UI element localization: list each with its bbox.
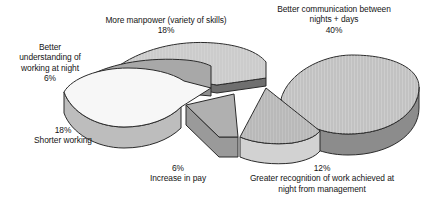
slice-label-communication: Better communication between nights + da… [243, 4, 425, 35]
slice-label-recognition: 12% Greater recognition of work achieved… [222, 163, 422, 194]
slice-label-manpower-line1: More manpower (variety of skills) [78, 15, 254, 25]
slice-percent-understanding: 6% [0, 73, 102, 83]
slice-label-shorter-line1: Shorter working [4, 135, 122, 145]
slice-label-understanding-line1: Better [0, 42, 102, 52]
slice-label-communication-line2: nights + days [243, 14, 425, 24]
slice-label-recognition-line2: night from management [222, 184, 422, 194]
slice-label-understanding-line3: working at night [0, 63, 102, 73]
slice-percent-shorter: 18% [4, 125, 122, 135]
slice-label-understanding: Better understanding of working at night… [0, 42, 102, 83]
pie-slice-pay [186, 94, 238, 157]
pie-chart-figure: Better communication between nights + da… [0, 0, 427, 200]
slice-label-shorter: 18% Shorter working [4, 125, 122, 146]
slice-label-recognition-line1: Greater recognition of work achieved at [222, 173, 422, 183]
slice-label-communication-line1: Better communication between [243, 4, 425, 14]
slice-percent-communication: 40% [243, 25, 425, 35]
slice-label-understanding-line2: understanding of [0, 52, 102, 62]
slice-percent-manpower: 18% [78, 25, 254, 35]
slice-label-manpower: More manpower (variety of skills) 18% [78, 15, 254, 36]
slice-percent-recognition: 12% [222, 163, 422, 173]
